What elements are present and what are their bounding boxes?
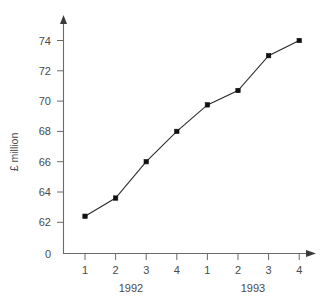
- y-tick-label-68: 68: [39, 125, 51, 137]
- series-markers: [83, 38, 302, 218]
- y-axis-title: £ million: [8, 133, 20, 172]
- x-group-label-1992: 1992: [119, 282, 143, 294]
- x-group-label-1993: 1993: [241, 282, 265, 294]
- x-tick-label-1992-q4: 4: [174, 264, 180, 276]
- line-chart: 74 72 70 68 66 64 62 0 £ million 1 2 3 4…: [0, 0, 327, 302]
- x-tick-label-1993-q2: 2: [235, 264, 241, 276]
- series-line: [85, 41, 299, 217]
- data-point: [236, 88, 240, 92]
- data-point: [175, 129, 179, 133]
- x-axis-arrow-icon: [306, 250, 316, 257]
- x-tick-label-1992-q1: 1: [82, 264, 88, 276]
- y-tick-label-74: 74: [39, 35, 51, 47]
- data-point: [83, 214, 87, 218]
- data-point: [205, 103, 209, 107]
- data-point: [113, 196, 117, 200]
- y-tick-label-72: 72: [39, 65, 51, 77]
- data-point: [144, 160, 148, 164]
- y-tick-label-64: 64: [39, 186, 51, 198]
- x-tick-label-1993-q1: 1: [204, 264, 210, 276]
- x-tick-label-1992-q2: 2: [113, 264, 119, 276]
- y-tick-label-62: 62: [39, 216, 51, 228]
- data-point: [266, 53, 270, 57]
- x-tick-label-1993-q4: 4: [296, 264, 302, 276]
- x-tick-label-1993-q3: 3: [266, 264, 272, 276]
- chart-canvas: 74 72 70 68 66 64 62 0 £ million 1 2 3 4…: [0, 0, 327, 302]
- x-tick-marks: [85, 254, 299, 261]
- x-tick-label-1992-q3: 3: [143, 264, 149, 276]
- y-origin-label: 0: [45, 248, 51, 260]
- y-tick-label-70: 70: [39, 95, 51, 107]
- y-tick-label-66: 66: [39, 156, 51, 168]
- y-axis-arrow-icon: [60, 15, 67, 24]
- data-point: [297, 38, 301, 42]
- y-tick-marks: [57, 41, 64, 223]
